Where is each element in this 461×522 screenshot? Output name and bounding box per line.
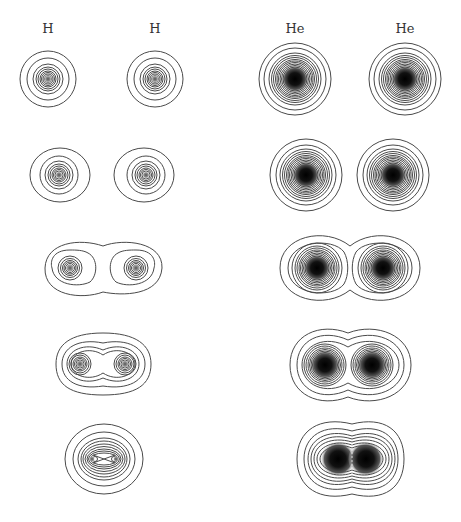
he2-molecule-row5 [297,422,404,496]
he-atom-row2-left [270,139,342,211]
h-atom-row1-right [127,51,183,107]
h2-molecule-row3 [45,242,162,295]
h2-molecule-row4 [56,333,151,395]
h-atom-row2-left [30,148,90,202]
he-atom-row1-right [369,43,441,115]
h-atom-row1-left [20,51,76,107]
he2-molecule-row3 [280,236,420,301]
h2-molecule-row5 [65,424,143,494]
he2-molecule-row4 [290,329,411,401]
he-atom-row2-right [357,139,429,211]
contour-diagram [0,0,461,522]
h-atom-row2-right [114,148,174,202]
he-atom-row1-left [259,43,331,115]
